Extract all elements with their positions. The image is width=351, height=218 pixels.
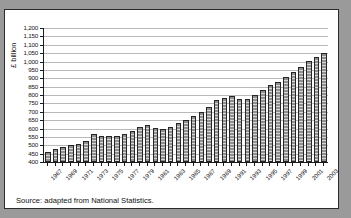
y-tick-label: 950 (28, 67, 38, 73)
y-tick-label: 850 (28, 84, 38, 90)
y-tick-mark (40, 112, 43, 113)
chart-figure: 1,2001,1501,1001,0501,000950900850800750… (4, 9, 339, 209)
y-tick-label: 1,200 (24, 25, 38, 31)
y-tick-label: 600 (28, 126, 38, 132)
x-tick-label: 1971 (80, 168, 93, 181)
bar (114, 136, 120, 162)
bar (176, 123, 182, 162)
x-tick-label: 1997 (280, 168, 293, 181)
x-tick-label: 1983 (172, 168, 185, 181)
y-tick-label: 1,150 (24, 33, 38, 39)
bar (83, 141, 89, 162)
source-divider (13, 191, 330, 192)
y-tick-mark (40, 53, 43, 54)
x-axis-labels: 1967196919711973197519771979198119831985… (43, 166, 333, 194)
bar (122, 134, 128, 162)
y-tick-mark (40, 45, 43, 46)
bar (252, 95, 258, 162)
bar (260, 90, 266, 162)
bar (191, 116, 197, 162)
y-tick-label: 750 (28, 100, 38, 106)
bar (168, 127, 174, 162)
bar (183, 120, 189, 162)
bar-series (44, 28, 328, 162)
y-tick-mark (40, 36, 43, 37)
x-tick-label: 1987 (203, 168, 216, 181)
y-tick-label: 1,100 (24, 42, 38, 48)
bar (68, 145, 74, 162)
y-tick-label: 1,050 (24, 50, 38, 56)
x-tick-label: 1989 (218, 168, 231, 181)
x-tick-label: 1969 (65, 168, 78, 181)
y-tick-mark (40, 62, 43, 63)
y-tick-mark (40, 28, 43, 29)
y-tick-label: 550 (28, 134, 38, 140)
x-tick-label: 2003 (326, 168, 339, 181)
bar (275, 82, 281, 162)
bar (268, 85, 274, 162)
y-tick-mark (40, 120, 43, 121)
bar (222, 98, 228, 162)
y-tick-label: 400 (28, 159, 38, 165)
x-tick-label: 1967 (50, 168, 63, 181)
bar (76, 144, 82, 162)
x-tick-label: 2001 (311, 168, 324, 181)
bar (60, 147, 66, 162)
bar (130, 131, 136, 162)
y-tick-mark (40, 137, 43, 138)
bar (306, 61, 312, 162)
y-tick-label: 900 (28, 75, 38, 81)
y-tick-mark (40, 162, 43, 163)
bar (245, 99, 251, 162)
x-tick-label: 1979 (142, 168, 155, 181)
y-axis-title: £ billion (9, 8, 18, 68)
x-tick-label: 1985 (188, 168, 201, 181)
y-tick-mark (40, 129, 43, 130)
bar (53, 149, 59, 162)
y-tick-label: 500 (28, 142, 38, 148)
bar (237, 99, 243, 162)
x-tick-label: 1981 (157, 168, 170, 181)
bar (283, 77, 289, 162)
bar (153, 128, 159, 162)
bar (314, 57, 320, 162)
y-tick-mark (40, 78, 43, 79)
y-tick-mark (40, 154, 43, 155)
bar (137, 127, 143, 162)
y-tick-mark (40, 103, 43, 104)
bar (91, 134, 97, 162)
x-tick-label: 1993 (249, 168, 262, 181)
bar (298, 67, 304, 162)
y-tick-mark (40, 70, 43, 71)
plot-area (43, 28, 328, 163)
source-note: Source: adapted from National Statistics… (16, 196, 154, 205)
x-tick-label: 1999 (295, 168, 308, 181)
bar (206, 107, 212, 162)
x-tick-label: 1995 (265, 168, 278, 181)
bar (229, 96, 235, 162)
bar (99, 136, 105, 162)
x-tick-label: 1973 (96, 168, 109, 181)
bar (106, 136, 112, 162)
bar (160, 129, 166, 163)
y-tick-label: 450 (28, 151, 38, 157)
x-tick-label: 1977 (126, 168, 139, 181)
y-tick-label: 1,000 (24, 59, 38, 65)
y-tick-label: 650 (28, 117, 38, 123)
x-tick-label: 1975 (111, 168, 124, 181)
y-tick-mark (40, 95, 43, 96)
y-tick-mark (40, 87, 43, 88)
y-tick-label: 700 (28, 109, 38, 115)
y-tick-label: 800 (28, 92, 38, 98)
x-tick-label: 1991 (234, 168, 247, 181)
bar (321, 53, 327, 162)
y-tick-mark (40, 145, 43, 146)
bar (291, 72, 297, 162)
bar (145, 125, 151, 162)
bar (214, 100, 220, 162)
bar (45, 152, 51, 162)
bar (199, 112, 205, 162)
